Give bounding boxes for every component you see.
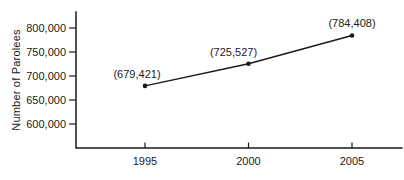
y-axis-tick-label: 700,000 (26, 70, 66, 82)
data-line (145, 35, 352, 85)
parolees-chart-figure: Number of Parolees 600,000650,000700,000… (0, 0, 404, 180)
y-axis-tick-label: 600,000 (26, 118, 66, 130)
parolees-line-chart: 600,000650,000700,000750,000800,00019952… (0, 0, 404, 180)
x-axis-tick-label: 2005 (340, 155, 364, 167)
y-axis-tick-label: 750,000 (26, 46, 66, 58)
x-axis-tick-label: 1995 (133, 155, 157, 167)
axis-lines (76, 12, 402, 148)
data-point-label: (679,421) (113, 68, 160, 80)
data-point-marker (143, 84, 148, 89)
data-point-label: (725,527) (210, 46, 257, 58)
data-point-marker (350, 33, 355, 38)
data-point-label: (784,408) (328, 17, 375, 29)
y-axis-tick-label: 650,000 (26, 94, 66, 106)
y-axis-tick-label: 800,000 (26, 22, 66, 34)
data-point-marker (246, 61, 251, 66)
x-axis-tick-label: 2000 (236, 155, 260, 167)
